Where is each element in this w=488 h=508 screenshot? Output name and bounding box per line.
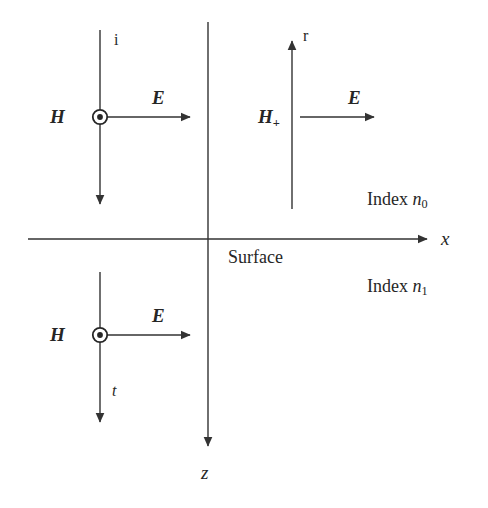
transmitted-h-label: H: [50, 325, 65, 344]
transmitted-ray-label: t: [112, 383, 116, 399]
reflected-h-symbol: H: [258, 106, 273, 127]
figure-canvas: i H E r H+ E t H E x z Surface Index n0 …: [0, 0, 488, 508]
incident-e-label: E: [152, 88, 165, 107]
upper-medium-index-prefix: Index: [367, 189, 412, 209]
incident-ray-label: i: [114, 32, 118, 48]
lower-medium-index-prefix: Index: [367, 276, 412, 296]
reflected-e-label: E: [348, 88, 361, 107]
transmitted-e-label: E: [152, 306, 165, 325]
z-axis-label: z: [201, 463, 208, 482]
reflected-ray-label: r: [303, 28, 308, 44]
lower-medium-index-label: Index n1: [367, 277, 428, 298]
reflected-h-into-page-icon: +: [273, 116, 280, 130]
upper-medium-index-subscript: 0: [421, 197, 427, 211]
upper-medium-index-label: Index n0: [367, 190, 428, 211]
incident-h-label: H: [50, 107, 65, 126]
reflected-h-label: H+: [258, 107, 280, 129]
incident-h-out-of-page-dot-icon: [97, 114, 103, 120]
lower-medium-index-subscript: 1: [421, 284, 427, 298]
surface-label: Surface: [228, 248, 283, 266]
transmitted-h-out-of-page-dot-icon: [97, 332, 103, 338]
x-axis-label: x: [441, 229, 449, 248]
